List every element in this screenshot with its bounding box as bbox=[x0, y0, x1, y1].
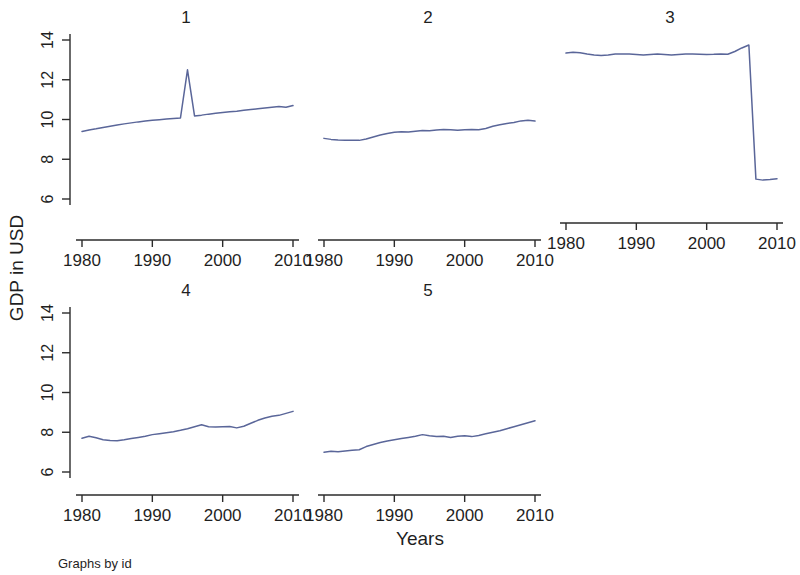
x-tick-label: 2000 bbox=[446, 506, 484, 525]
y-tick-label: 10 bbox=[39, 384, 56, 402]
y-tick-label: 8 bbox=[39, 155, 56, 164]
chart-footnote: Graphs by id bbox=[58, 556, 132, 571]
y-tick-label: 12 bbox=[39, 71, 56, 89]
x-tick-label: 1980 bbox=[305, 506, 343, 525]
panel-2-title: 2 bbox=[423, 8, 432, 27]
panel-2: 2 1980199020002010 bbox=[305, 8, 554, 270]
x-tick-label: 2000 bbox=[204, 251, 242, 270]
panel-2-series bbox=[324, 120, 535, 140]
x-tick-label: 1990 bbox=[617, 234, 655, 253]
x-tick-label: 2000 bbox=[446, 251, 484, 270]
panel-1-series bbox=[82, 70, 293, 132]
x-tick-label: 1980 bbox=[63, 251, 101, 270]
panel-4: 4 68101214 1980199020002010 bbox=[39, 281, 312, 525]
panel-5-series bbox=[324, 421, 535, 452]
panel-3-series bbox=[566, 45, 777, 180]
panel-5: 5 1980199020002010 bbox=[305, 281, 554, 525]
panel-3-xaxis: 1980199020002010 bbox=[547, 223, 796, 253]
y-tick-label: 14 bbox=[39, 304, 56, 322]
x-tick-label: 1990 bbox=[375, 251, 413, 270]
multi-panel-line-chart: 1 68101214 1980199020002010 2 1980199020… bbox=[0, 0, 800, 575]
x-tick-label: 1980 bbox=[63, 506, 101, 525]
chart-svg: 1 68101214 1980199020002010 2 1980199020… bbox=[0, 0, 800, 575]
x-tick-label: 2000 bbox=[688, 234, 726, 253]
panel-4-series bbox=[82, 411, 293, 440]
panel-4-xaxis: 1980199020002010 bbox=[63, 495, 312, 525]
panel-4-title: 4 bbox=[181, 281, 190, 300]
y-tick-label: 12 bbox=[39, 344, 56, 362]
panel-2-xaxis: 1980199020002010 bbox=[305, 240, 554, 270]
panel-5-xaxis: 1980199020002010 bbox=[305, 495, 554, 525]
y-tick-label: 10 bbox=[39, 111, 56, 129]
panel-1-title: 1 bbox=[181, 8, 190, 27]
y-tick-label: 6 bbox=[39, 467, 56, 476]
x-tick-label: 2010 bbox=[758, 234, 796, 253]
x-tick-label: 1980 bbox=[305, 251, 343, 270]
y-tick-label: 14 bbox=[39, 31, 56, 49]
x-axis-title: Years bbox=[396, 528, 444, 549]
x-tick-label: 1980 bbox=[547, 234, 585, 253]
x-tick-label: 2010 bbox=[516, 251, 554, 270]
x-tick-label: 1990 bbox=[375, 506, 413, 525]
panel-4-yaxis: 68101214 bbox=[39, 304, 70, 478]
panel-5-title: 5 bbox=[423, 281, 432, 300]
x-tick-label: 2010 bbox=[516, 506, 554, 525]
panel-3-title: 3 bbox=[665, 8, 674, 27]
x-tick-label: 1990 bbox=[133, 251, 171, 270]
panel-1: 1 68101214 1980199020002010 bbox=[39, 8, 312, 270]
panel-3: 3 1980199020002010 bbox=[547, 8, 796, 253]
panel-1-xaxis: 1980199020002010 bbox=[63, 240, 312, 270]
x-tick-label: 1990 bbox=[133, 506, 171, 525]
y-axis-title: GDP in USD bbox=[6, 215, 27, 321]
y-tick-label: 8 bbox=[39, 428, 56, 437]
panel-1-yaxis: 68101214 bbox=[39, 31, 70, 205]
x-tick-label: 2000 bbox=[204, 506, 242, 525]
y-tick-label: 6 bbox=[39, 194, 56, 203]
